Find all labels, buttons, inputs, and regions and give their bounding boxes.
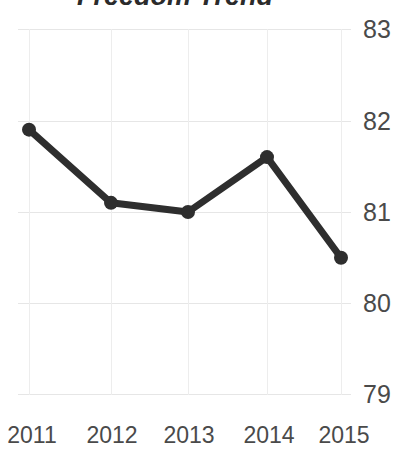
data-point-2013 xyxy=(181,205,195,219)
chart-title: Freedom Trend xyxy=(0,0,350,11)
line-series-freedom-score xyxy=(18,29,351,395)
data-point-2011 xyxy=(22,123,36,137)
chart-container: Freedom Trend 83 82 81 80 79 2011 2012 2… xyxy=(0,0,417,464)
plot-area xyxy=(18,29,351,395)
y-axis-label-83: 83 xyxy=(363,16,413,42)
y-axis-label-82: 82 xyxy=(363,108,413,134)
y-axis-label-80: 80 xyxy=(363,290,413,316)
y-axis-label-81: 81 xyxy=(363,199,413,225)
x-axis-label-2011: 2011 xyxy=(0,422,77,448)
data-point-2012 xyxy=(104,196,118,210)
data-point-2014 xyxy=(260,150,274,164)
data-point-2015 xyxy=(334,251,348,265)
x-axis-label-2013: 2013 xyxy=(144,422,234,448)
y-axis-label-79: 79 xyxy=(363,381,413,407)
x-axis-label-2015: 2015 xyxy=(299,422,389,448)
